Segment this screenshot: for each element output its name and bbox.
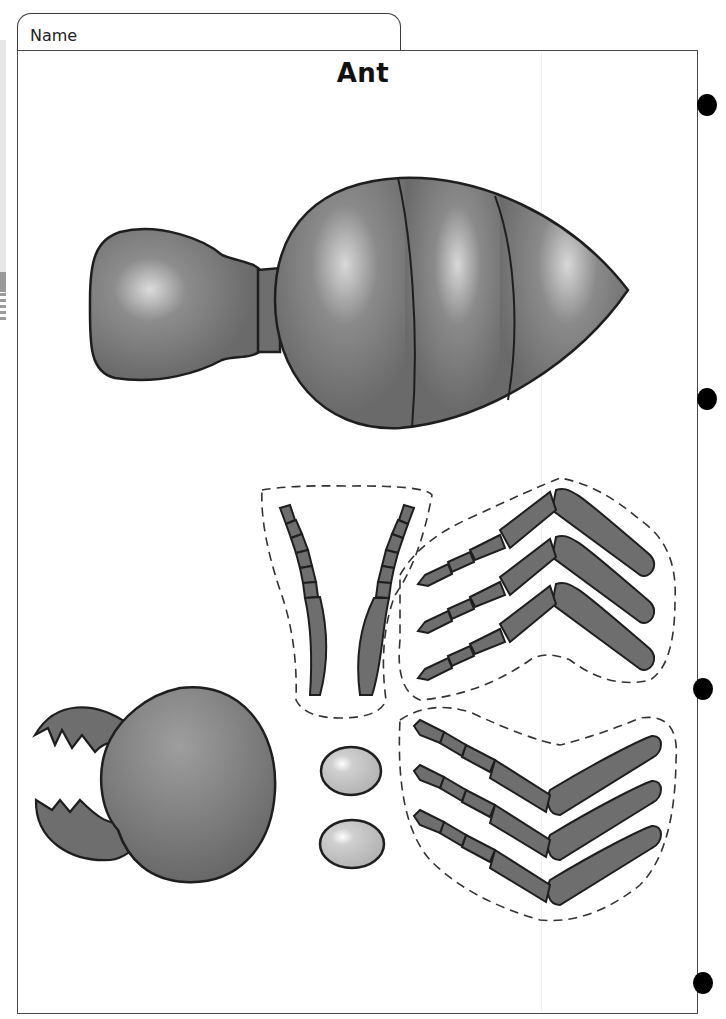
head-piece <box>35 687 275 882</box>
antennae-piece <box>262 486 432 718</box>
eyes-piece <box>320 747 384 868</box>
legs-lower-piece <box>399 708 676 921</box>
binder-hole <box>693 678 713 700</box>
binder-hole <box>693 972 713 994</box>
legs-upper-piece <box>399 478 675 700</box>
thorax-piece <box>90 229 280 380</box>
binder-hole <box>697 94 717 116</box>
binder-hole <box>697 388 717 410</box>
abdomen-piece <box>270 170 635 440</box>
ant-parts-artwork <box>0 0 726 1019</box>
